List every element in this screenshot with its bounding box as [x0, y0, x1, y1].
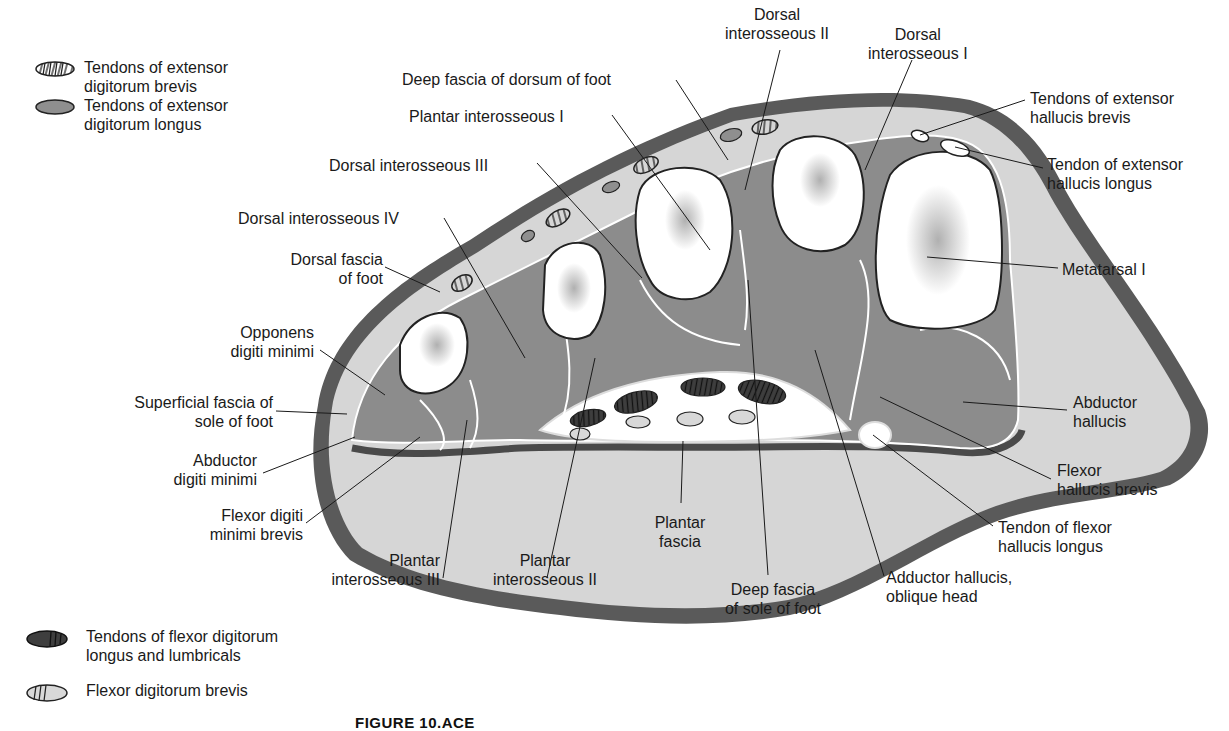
label-dorsal-fascia: Dorsal fasciaof foot: [263, 250, 383, 288]
label-tendons-extensor-hallucis-brevis: Tendons of extensorhallucis brevis: [1030, 89, 1174, 127]
label-deep-fascia-dorsum: Deep fascia of dorsum of foot: [402, 70, 611, 89]
label-dorsal-interosseous-i: Dorsalinterosseous I: [868, 25, 968, 63]
legend-item-extensor-digitorum-brevis: Tendons of extensordigitorum brevis: [34, 58, 228, 96]
label-plantar-interosseous-ii: Plantarinterosseous II: [470, 551, 620, 589]
label-abductor-hallucis: Abductorhallucis: [1073, 393, 1137, 431]
dark-striped-oval-icon: [24, 629, 70, 649]
label-plantar-interosseous-i: Plantar interosseous I: [409, 107, 564, 126]
label-dorsal-interosseous-iv: Dorsal interosseous IV: [238, 209, 399, 228]
label-superficial-fascia: Superficial fascia ofsole of foot: [90, 393, 273, 431]
label-plantar-fascia: Plantarfascia: [640, 513, 720, 551]
label-abductor-digiti-minimi: Abductordigiti minimi: [140, 451, 257, 489]
label-dorsal-interosseous-iii: Dorsal interosseous III: [329, 156, 488, 175]
fhl-tendon: [859, 422, 891, 448]
label-flexor-digiti-minimi-brevis: Flexor digitiminimi brevis: [180, 506, 303, 544]
legend-item-flexor-digitorum-brevis: Flexor digitorum brevis: [24, 681, 248, 703]
label-adductor-hallucis: Adductor hallucis,oblique head: [886, 568, 1012, 606]
label-flexor-hallucis-brevis: Flexorhallucis brevis: [1057, 461, 1157, 499]
light-striped-oval-icon: [24, 683, 70, 703]
striped-oval-icon: [34, 60, 76, 78]
label-plantar-interosseous-iii: Plantarinterosseous III: [300, 551, 440, 589]
label-deep-fascia-sole: Deep fasciaof sole of foot: [703, 580, 843, 618]
legend-item-flexor-digitorum-longus: Tendons of flexor digitorumlongus and lu…: [24, 627, 278, 665]
gray-oval-icon: [34, 98, 76, 116]
label-tendon-flexor-hallucis-longus: Tendon of flexorhallucis longus: [998, 518, 1112, 556]
figure-caption: FIGURE 10.ACE: [355, 714, 475, 731]
label-dorsal-interosseous-ii: Dorsalinterosseous II: [725, 5, 829, 43]
label-opponens-digiti-minimi: Opponensdigiti minimi: [180, 323, 314, 361]
label-metatarsal-i: Metatarsal I: [1062, 260, 1146, 279]
legend-item-extensor-digitorum-longus: Tendons of extensordigitorum longus: [34, 96, 228, 134]
label-tendon-extensor-hallucis-longus: Tendon of extensorhallucis longus: [1047, 155, 1183, 193]
